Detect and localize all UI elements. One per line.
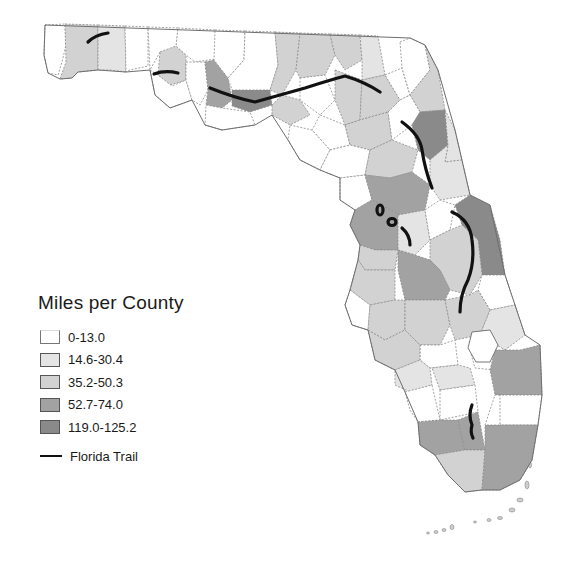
central-counties xyxy=(345,195,525,370)
south-counties xyxy=(395,345,542,492)
legend-swatch xyxy=(40,375,60,389)
legend-label: 52.7-74.0 xyxy=(68,397,123,412)
legend-class-3: 35.2-50.3 xyxy=(40,371,184,394)
legend-class-5: 119.0-125.2 xyxy=(40,416,184,439)
florida-county-map xyxy=(0,0,577,561)
legend-swatch xyxy=(40,330,60,344)
north-counties xyxy=(288,33,470,215)
legend-class-1: 0-13.0 xyxy=(40,326,184,349)
legend-trail: Florida Trail xyxy=(40,449,184,464)
legend-class-4: 52.7-74.0 xyxy=(40,394,184,417)
legend-title: Miles per County xyxy=(38,292,184,314)
legend-label: 35.2-50.3 xyxy=(68,375,123,390)
legend: Miles per County 0-13.0 14.6-30.4 35.2-5… xyxy=(40,292,184,464)
panhandle-counties xyxy=(44,24,310,130)
legend-swatch xyxy=(40,398,60,412)
legend-swatch xyxy=(40,420,60,434)
legend-swatch xyxy=(40,353,60,367)
legend-label: 0-13.0 xyxy=(68,330,105,345)
legend-label: 14.6-30.4 xyxy=(68,352,123,367)
legend-class-2: 14.6-30.4 xyxy=(40,349,184,372)
trail-line-icon xyxy=(40,455,62,457)
legend-trail-label: Florida Trail xyxy=(70,449,138,464)
legend-label: 119.0-125.2 xyxy=(68,420,136,435)
